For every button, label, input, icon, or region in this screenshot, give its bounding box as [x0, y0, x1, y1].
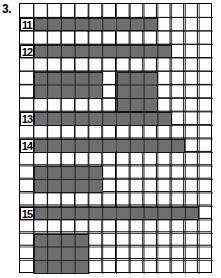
- grid-cell-filled: [48, 166, 62, 180]
- grid-cell-filled: [34, 85, 48, 99]
- row-label-15: 15: [20, 207, 34, 221]
- grid-cell-filled: [75, 234, 89, 248]
- grid-cell-filled: [144, 207, 158, 221]
- grid-cell-filled: [75, 45, 89, 59]
- row-label-11: 11: [20, 18, 34, 32]
- grid-cell-filled: [130, 45, 144, 59]
- grid-cell-filled: [158, 112, 172, 126]
- grid-cell-filled: [48, 72, 62, 86]
- grid-cell-filled: [89, 180, 103, 194]
- grid-cell-filled: [117, 207, 131, 221]
- grid-cell-filled: [144, 139, 158, 153]
- grid-cell-filled: [61, 207, 75, 221]
- grid-cell-filled: [75, 261, 89, 275]
- grid-cell-filled: [48, 247, 62, 261]
- grid-cell-filled: [158, 139, 172, 153]
- grid-cell-filled: [130, 18, 144, 32]
- row-label-14: 14: [20, 139, 34, 153]
- grid-cell-filled: [89, 18, 103, 32]
- grid-cell-filled: [75, 166, 89, 180]
- grid-cell-filled: [61, 166, 75, 180]
- grid-cell-filled: [61, 45, 75, 59]
- grid-cell-filled: [75, 247, 89, 261]
- grid-cell-filled: [75, 207, 89, 221]
- grid-cell-filled: [34, 72, 48, 86]
- grid-cell-filled: [89, 45, 103, 59]
- grid-cell-filled: [172, 207, 186, 221]
- grid-cell-filled: [34, 207, 48, 221]
- row-label-13: 13: [20, 112, 34, 126]
- grid-cell-filled: [103, 18, 117, 32]
- grid-cell-filled: [61, 261, 75, 275]
- grid-cell-filled: [103, 112, 117, 126]
- grid-cell-filled: [48, 234, 62, 248]
- grid-cell-filled: [117, 72, 131, 86]
- grid-cell-filled: [89, 72, 103, 86]
- grid-cell-filled: [48, 112, 62, 126]
- grid-cell-filled: [34, 18, 48, 32]
- grid-cell-filled: [117, 45, 131, 59]
- grid-cell-filled: [75, 18, 89, 32]
- grid-cell-filled: [75, 139, 89, 153]
- grid-cell-filled: [158, 207, 172, 221]
- grid-cell-filled: [103, 207, 117, 221]
- grid-cell-filled: [144, 45, 158, 59]
- grid-cell-filled: [34, 112, 48, 126]
- grid-cell-filled: [61, 234, 75, 248]
- grid-cell-filled: [61, 247, 75, 261]
- grid-cell-filled: [130, 112, 144, 126]
- grid-container: 1112131415: [19, 3, 212, 273]
- grid-cell-filled: [89, 166, 103, 180]
- grid-cell-filled: [130, 139, 144, 153]
- grid-cell-filled: [61, 139, 75, 153]
- grid-cell-filled: [34, 234, 48, 248]
- grid-cell-filled: [158, 45, 172, 59]
- grid-cell-filled: [172, 139, 186, 153]
- grid-cell-filled: [89, 85, 103, 99]
- grid-cell-filled: [34, 247, 48, 261]
- grid-cell-filled: [48, 85, 62, 99]
- grid-cell-filled: [144, 85, 158, 99]
- grid-cell-filled: [89, 112, 103, 126]
- grid-cell-filled: [75, 180, 89, 194]
- grid-cell-filled: [89, 207, 103, 221]
- grid-cell-filled: [130, 85, 144, 99]
- grid-cell-filled: [34, 261, 48, 275]
- grid-cell-filled: [34, 139, 48, 153]
- grid-cell-filled: [144, 72, 158, 86]
- grid-cell-filled: [48, 45, 62, 59]
- grid-cell-filled: [103, 45, 117, 59]
- grid-cell-filled: [185, 207, 199, 221]
- grid-cell-filled: [61, 85, 75, 99]
- grid-cell-filled: [130, 72, 144, 86]
- grid-cell-filled: [144, 99, 158, 113]
- grid-cell-filled: [144, 112, 158, 126]
- grid-cell-filled: [117, 112, 131, 126]
- grid-cell-filled: [48, 261, 62, 275]
- grid-cell-filled: [117, 99, 131, 113]
- grid-cell-filled: [144, 18, 158, 32]
- grid-cell-filled: [48, 207, 62, 221]
- row-label-12: 12: [20, 45, 34, 59]
- figure-number-label: 3.: [2, 3, 11, 16]
- grid-cell-filled: [130, 99, 144, 113]
- grid-cell-filled: [117, 139, 131, 153]
- grid-cell-filled: [117, 18, 131, 32]
- grid-cell-filled: [61, 72, 75, 86]
- worksheet-figure: 3. 1112131415: [0, 0, 221, 278]
- grid-cell-filled: [103, 139, 117, 153]
- grid-cell-filled: [89, 139, 103, 153]
- grid-cell-filled: [130, 207, 144, 221]
- grid-cell-filled: [34, 180, 48, 194]
- grid-cell-filled: [48, 180, 62, 194]
- grid-cell-filled: [117, 85, 131, 99]
- grid-cell-filled: [61, 180, 75, 194]
- grid-cell-filled: [75, 85, 89, 99]
- grid-cell-filled: [61, 18, 75, 32]
- grid-cell-filled: [75, 72, 89, 86]
- grid-cell-filled: [34, 45, 48, 59]
- grid-cell-filled: [75, 112, 89, 126]
- grid-cell-filled: [48, 18, 62, 32]
- grid-cell-filled: [48, 139, 62, 153]
- grid-cell-filled: [61, 112, 75, 126]
